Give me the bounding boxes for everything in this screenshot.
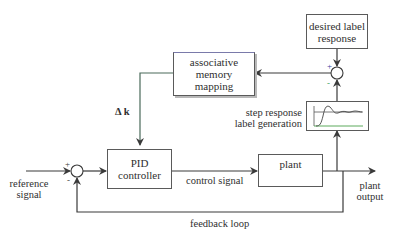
control-signal-label: control signal (186, 175, 243, 186)
step-response-plot-icon (307, 102, 368, 130)
desired-label-response-block: desired label response (306, 14, 368, 49)
plant-block: plant (258, 154, 323, 187)
label-summing-junction (331, 67, 343, 79)
step-response-label-generation-label: step response label generation (222, 107, 302, 129)
label-junction-plus-sign: + (327, 62, 332, 71)
associative-memory-mapping-text: associative memory mapping (190, 56, 238, 92)
input-junction-plus-sign: + (65, 160, 70, 169)
feedback-loop-label: feedback loop (190, 218, 249, 229)
plant-text: plant (280, 158, 302, 170)
delta-k-wire (140, 73, 173, 145)
associative-memory-mapping-block: associative memory mapping (173, 52, 255, 96)
label-junction-minus-sign: - (327, 79, 330, 88)
pid-controller-block: PID controller (107, 149, 172, 189)
desired-label-response-text: desired label response (309, 20, 365, 44)
step-response-label-generation-block (306, 101, 369, 131)
plant-output-label: plant output (350, 180, 390, 202)
pid-controller-text: PID controller (118, 157, 161, 181)
input-summing-junction (71, 165, 83, 177)
delta-k-label: Δ k (115, 106, 129, 117)
input-junction-minus-sign: - (67, 176, 70, 185)
reference-signal-label: reference signal (4, 178, 54, 200)
